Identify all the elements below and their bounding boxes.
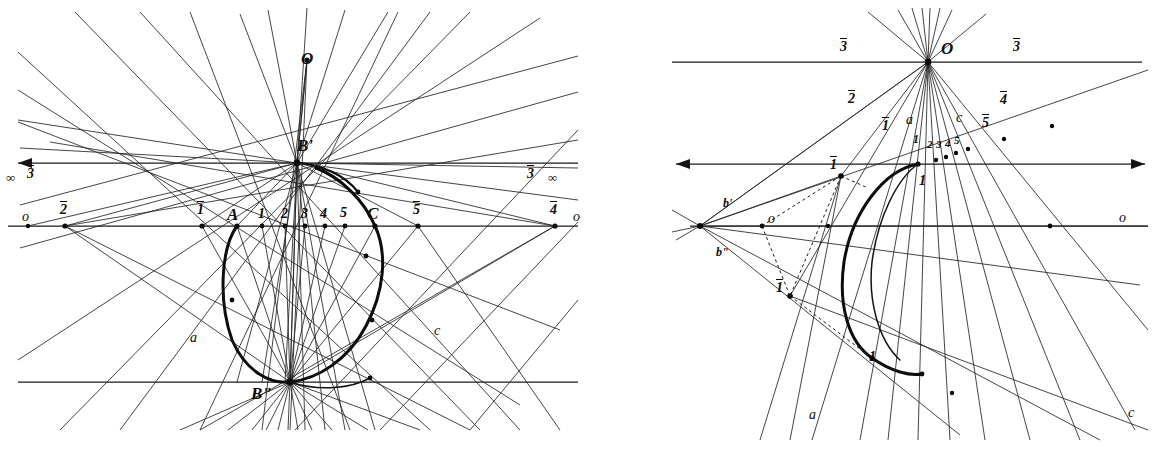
left-base-point-label-3: 1	[258, 207, 265, 221]
right-pencil-left-vertex	[672, 70, 1148, 285]
right-ray-label-2bar: 2	[848, 92, 855, 106]
left-upper-line-infinity-left: ∞	[6, 171, 15, 184]
left-base-line-o-label-right: o	[573, 210, 580, 224]
left-point-B-double-prime-label: B"	[251, 385, 272, 402]
right-vertex-b-double-prime-label: b"	[716, 246, 729, 258]
left-base-line-o-label-left: o	[22, 210, 29, 224]
right-ray-label-a-lower: a	[809, 408, 816, 422]
right-vertex-1bar-upper-label: 1	[830, 158, 837, 172]
right-o-line-label-left: o	[768, 212, 775, 226]
left-base-point-label-2: A	[227, 206, 238, 223]
left-base-point-label-1: 1	[197, 203, 204, 217]
right-ray-label-4: 4	[945, 138, 951, 149]
left-point-O-label: O	[301, 50, 313, 67]
right-dotted-construction	[762, 176, 872, 358]
left-ray-label-a: a	[190, 331, 197, 345]
right-ray-label-4bar: 4	[1000, 93, 1007, 107]
right-panel-geometry	[672, 8, 1148, 440]
left-ray-label-c: c	[434, 324, 440, 338]
right-ray-label-c-lower: c	[1128, 406, 1134, 420]
left-upper-line-ray-label-left: 3	[27, 167, 34, 181]
right-ray-label-2: 2	[927, 139, 933, 150]
right-conic-inner-arc	[871, 164, 918, 360]
right-top-line-label-left: 3	[840, 40, 847, 54]
right-point-O-label: O	[941, 40, 953, 57]
left-base-point-label-5: 3	[301, 207, 308, 221]
left-pencil-B-double-prime	[65, 163, 555, 430]
left-base-point-label-6: 4	[320, 207, 327, 221]
right-ray-label-c-upper: c	[956, 111, 962, 125]
figure-canvas	[0, 0, 1156, 451]
left-base-point-label-7: 5	[340, 206, 347, 220]
right-top-line-label-right: 3	[1013, 40, 1020, 54]
right-transversal-lines	[700, 62, 1148, 440]
right-ray-label-3: 3	[936, 139, 942, 150]
left-upper-line-ray-label-right: 3	[527, 167, 534, 181]
right-marked-points	[697, 59, 1054, 396]
right-mid-line-arrow-left	[676, 159, 690, 169]
left-base-point-label-0: 2	[60, 203, 67, 217]
left-base-point-label-10: 4	[550, 203, 557, 217]
figure-root: O B' B" ∞ 3 3 ∞ o o 2 1 A 1 2 3 4 5 C 5 …	[0, 0, 1156, 451]
right-ray-label-1: 1	[913, 133, 919, 145]
right-ray-label-5: 5	[954, 135, 960, 146]
left-base-point-label-9: 5	[413, 203, 420, 217]
right-o-line-label-right: o	[1119, 211, 1126, 225]
left-point-B-prime-label: B'	[297, 137, 313, 154]
left-upper-line-infinity-right: ∞	[548, 171, 557, 184]
right-mid-line-arrow-right	[1131, 159, 1145, 169]
left-panel-geometry	[8, 8, 578, 430]
right-ray-label-1bar: 1	[882, 119, 889, 133]
right-conic-point-label-1-lower: 1	[869, 350, 876, 364]
left-base-point-label-4: 2	[281, 207, 288, 221]
right-conic-curve	[842, 164, 922, 374]
right-conic-point-label-1-upper: 1	[919, 174, 926, 188]
left-base-point-label-8: C	[367, 205, 378, 222]
right-ray-label-5bar: 5	[982, 116, 989, 130]
right-ray-label-a-upper: a	[906, 113, 913, 127]
right-vertex-b-prime-label: b'	[723, 197, 732, 209]
right-vertex-1bar-lower-label: 1	[776, 281, 783, 295]
